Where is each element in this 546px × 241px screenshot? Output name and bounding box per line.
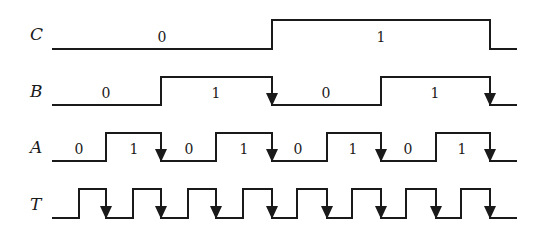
- state-value: 1: [458, 141, 467, 157]
- state-value: 0: [404, 141, 413, 157]
- signal-label: A: [28, 137, 42, 157]
- state-value: 1: [377, 29, 386, 45]
- signal-label: C: [30, 24, 43, 44]
- state-value: 1: [130, 141, 139, 157]
- signal-label: T: [30, 194, 43, 214]
- signal-b: B0101: [29, 77, 517, 106]
- timing-diagram: C01B0101A01010101T: [0, 0, 546, 241]
- state-value: 0: [322, 85, 331, 101]
- signal-label: B: [29, 81, 43, 101]
- state-value: 0: [102, 85, 111, 101]
- signal-c: C01: [30, 20, 517, 49]
- state-value: 0: [185, 141, 194, 157]
- waveform-line: [52, 20, 517, 49]
- state-value: 1: [349, 141, 358, 157]
- waveform-line: [52, 133, 517, 161]
- state-value: 1: [240, 141, 249, 157]
- state-value: 1: [212, 85, 221, 101]
- state-value: 1: [431, 85, 440, 101]
- state-value: 0: [75, 141, 84, 157]
- signal-group: C01B0101A01010101T: [28, 20, 517, 219]
- state-value: 0: [294, 141, 303, 157]
- signal-t: T: [30, 189, 517, 219]
- waveform-line: [52, 189, 517, 218]
- waveform-line: [52, 77, 517, 105]
- signal-a: A01010101: [28, 133, 517, 162]
- state-value: 0: [158, 29, 167, 45]
